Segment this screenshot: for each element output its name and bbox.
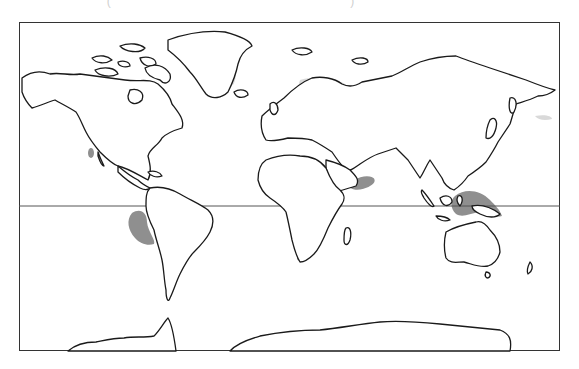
british-isles bbox=[270, 102, 278, 114]
arctic-island-2 bbox=[95, 68, 118, 76]
shade-north-pacific bbox=[535, 115, 552, 120]
new-zealand bbox=[527, 262, 532, 274]
shade-baja-california bbox=[88, 148, 94, 158]
svalbard bbox=[292, 48, 312, 55]
arctic-island-1 bbox=[92, 56, 112, 63]
hudson-bay bbox=[128, 89, 143, 103]
world-map bbox=[0, 0, 579, 369]
australia bbox=[445, 221, 501, 266]
greenland bbox=[168, 31, 252, 97]
sulawesi bbox=[457, 196, 462, 206]
tasmania bbox=[485, 272, 490, 278]
antarctica-east bbox=[230, 321, 511, 351]
sumatra bbox=[421, 190, 434, 207]
borneo bbox=[440, 196, 452, 206]
south-america bbox=[146, 187, 213, 300]
land-outlines bbox=[22, 31, 555, 351]
arctic-island-4 bbox=[118, 61, 130, 67]
antarctica-west bbox=[68, 318, 176, 351]
novaya-zemlya bbox=[352, 58, 368, 64]
iceland bbox=[234, 90, 248, 98]
java bbox=[436, 216, 450, 221]
arctic-island-3 bbox=[120, 44, 145, 52]
madagascar bbox=[344, 228, 351, 245]
kamchatka bbox=[509, 98, 516, 113]
